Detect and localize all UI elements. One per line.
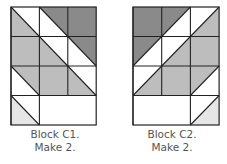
block-c1-diagram xyxy=(0,0,110,128)
block-c1-caption-quantity: Make 2. xyxy=(0,141,110,154)
block-c2: Block C2. Make 2. xyxy=(120,0,227,128)
quilt-square xyxy=(39,96,96,126)
block-c1-caption-title: Block C1. xyxy=(0,128,110,141)
block-c2-caption-quantity: Make 2. xyxy=(117,141,227,154)
quilt-square xyxy=(190,37,219,67)
quilt-square xyxy=(11,37,39,67)
quilt-square xyxy=(162,66,191,96)
block-c2-diagram xyxy=(120,0,227,128)
quilt-square xyxy=(68,7,96,37)
quilt-square xyxy=(133,96,190,126)
block-c1-caption: Block C1. Make 2. xyxy=(0,128,110,154)
block-c2-caption-title: Block C2. xyxy=(117,128,227,141)
block-c1: Block C1. Make 2. xyxy=(0,0,110,128)
block-c2-caption: Block C2. Make 2. xyxy=(117,128,227,154)
quilt-square xyxy=(39,66,67,96)
quilt-square xyxy=(133,7,162,37)
